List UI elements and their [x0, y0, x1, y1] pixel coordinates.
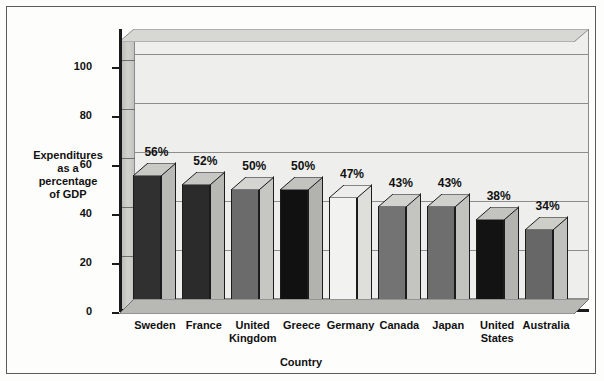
bar-value-label: 56%	[142, 145, 170, 159]
y-tick-mark	[112, 67, 119, 69]
bar-value-label: 52%	[191, 154, 219, 168]
gridline-connector	[122, 60, 135, 61]
chart-page: Expenditures as a percentage of GDP 0204…	[0, 0, 604, 381]
bar-top-face	[525, 216, 568, 229]
bar-top-face	[378, 193, 421, 206]
bar-value-label: 47%	[338, 167, 366, 181]
bar-side-face	[455, 193, 470, 312]
gridline-connector	[122, 109, 135, 110]
bar	[329, 197, 357, 312]
gridline	[134, 103, 589, 104]
bar-value-label: 43%	[436, 176, 464, 190]
bar	[231, 189, 259, 312]
gridline	[134, 54, 589, 55]
figure-frame: Expenditures as a percentage of GDP 0204…	[6, 6, 596, 374]
gridline	[134, 152, 589, 153]
bar-top-face	[427, 193, 470, 206]
y-tick-mark	[112, 165, 119, 167]
bar-front-face	[378, 206, 406, 312]
bar-top-face	[329, 184, 372, 197]
bar	[280, 189, 308, 312]
y-tick-mark	[112, 263, 119, 265]
y-tick-mark	[112, 116, 119, 118]
gridline-connector	[122, 158, 135, 159]
bar-front-face	[133, 175, 161, 312]
bar-value-label: 50%	[240, 159, 268, 173]
y-axis-title: Expenditures as a percentage of GDP	[25, 149, 111, 201]
bar-value-label: 38%	[485, 189, 513, 203]
bar-side-face	[308, 176, 323, 312]
bar-side-face	[504, 206, 519, 312]
y-tick-label: 0	[86, 305, 92, 317]
bar-side-face	[357, 184, 372, 312]
bar-top-face	[182, 171, 225, 184]
bar-front-face	[231, 189, 259, 312]
bar-side-face	[406, 193, 421, 312]
bar	[182, 184, 210, 312]
y-tick-label: 20	[80, 256, 92, 268]
y-tick-mark	[112, 214, 119, 216]
chart-top-wall	[119, 29, 589, 42]
bar-side-face	[553, 215, 568, 311]
bar-top-face	[280, 176, 323, 189]
bar	[476, 219, 504, 312]
x-axis-title: Country	[7, 356, 595, 368]
bar-front-face	[280, 189, 308, 312]
y-tick-label: 40	[80, 207, 92, 219]
bar-side-face	[259, 176, 274, 312]
chart-floor	[119, 299, 589, 314]
y-tick-label: 80	[80, 109, 92, 121]
y-tick-mark	[112, 312, 119, 314]
bar-front-face	[182, 184, 210, 312]
bar-top-face	[231, 176, 274, 189]
bar-front-face	[329, 197, 357, 312]
bar-top-face	[133, 162, 176, 175]
bar	[378, 206, 406, 312]
y-tick-label: 60	[80, 158, 92, 170]
bar	[133, 175, 161, 312]
bar-top-face	[476, 206, 519, 219]
bar	[427, 206, 455, 312]
y-tick-label: 100	[74, 60, 92, 72]
bar-value-label: 43%	[387, 176, 415, 190]
y-axis-line	[119, 29, 122, 312]
category-label: Australia	[515, 319, 577, 332]
bar-front-face	[476, 219, 504, 312]
bar-value-label: 34%	[534, 199, 562, 213]
bar-value-label: 50%	[289, 159, 317, 173]
bar-side-face	[161, 161, 176, 311]
bar-front-face	[427, 206, 455, 312]
bar-side-face	[210, 171, 225, 312]
